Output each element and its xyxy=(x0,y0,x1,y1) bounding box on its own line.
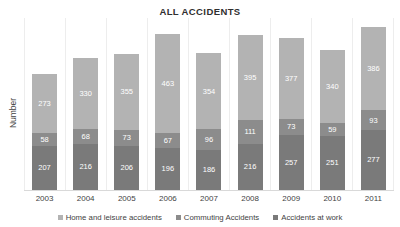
bar-segment[interactable]: 73 xyxy=(279,119,304,135)
chart-body: Number 273582073306821635573206463671963… xyxy=(0,18,400,207)
x-axis-tick-label: 2009 xyxy=(271,191,312,207)
bar-value-label: 273 xyxy=(38,100,51,108)
bar-value-label: 73 xyxy=(287,123,295,131)
x-axis-tick-label: 2007 xyxy=(188,191,229,207)
legend-label: Home and leisure accidents xyxy=(66,213,162,222)
bar-segment[interactable]: 59 xyxy=(320,123,345,136)
x-axis-tick-label: 2010 xyxy=(312,191,353,207)
bar-value-label: 330 xyxy=(79,90,92,98)
bar-segment[interactable]: 377 xyxy=(279,38,304,119)
bar-value-label: 216 xyxy=(244,163,257,171)
bar-segment[interactable]: 186 xyxy=(196,150,221,190)
bar-slot: 33068216 xyxy=(65,18,106,190)
bar-slot: 27358207 xyxy=(24,18,65,190)
stacked-bar-chart: ALL ACCIDENTS Number 2735820733068216355… xyxy=(0,0,400,227)
chart-legend: Home and leisure accidentsCommuting Acci… xyxy=(0,207,400,227)
legend-swatch-icon xyxy=(273,215,278,220)
stacked-bar[interactable]: 33068216 xyxy=(73,58,98,190)
bar-value-label: 59 xyxy=(328,126,336,134)
bar-segment[interactable]: 58 xyxy=(32,133,57,145)
x-axis-tick-label: 2004 xyxy=(65,191,106,207)
bar-segment[interactable]: 216 xyxy=(238,144,263,190)
bar-value-label: 251 xyxy=(326,159,339,167)
bar-segment[interactable]: 277 xyxy=(361,130,386,190)
stacked-bar[interactable]: 37773257 xyxy=(279,38,304,190)
x-axis-tick-label: 2006 xyxy=(147,191,188,207)
bar-value-label: 93 xyxy=(369,117,377,125)
bar-value-label: 355 xyxy=(121,88,134,96)
bar-value-label: 386 xyxy=(367,65,380,73)
bar-segment[interactable]: 73 xyxy=(114,130,139,146)
bar-slot: 38693277 xyxy=(353,18,394,190)
bar-value-label: 73 xyxy=(123,134,131,142)
stacked-bar[interactable]: 27358207 xyxy=(32,74,57,190)
bar-segment[interactable]: 216 xyxy=(73,144,98,190)
bar-segment[interactable]: 463 xyxy=(155,34,180,134)
legend-item[interactable]: Accidents at work xyxy=(273,213,342,222)
bar-segment[interactable]: 67 xyxy=(155,133,180,147)
bar-segment[interactable]: 386 xyxy=(361,27,386,110)
y-axis-label-container: Number xyxy=(2,18,24,207)
x-axis-tick-label: 2005 xyxy=(106,191,147,207)
bar-value-label: 395 xyxy=(244,74,257,82)
bar-segment[interactable]: 355 xyxy=(114,54,139,130)
bar-segment[interactable]: 96 xyxy=(196,129,221,150)
bar-value-label: 68 xyxy=(81,133,89,141)
plot-area: 2735820733068216355732064636719635496186… xyxy=(24,18,394,190)
x-axis-tick-label: 2011 xyxy=(353,191,394,207)
bar-value-label: 463 xyxy=(162,80,175,88)
plot-column: 2735820733068216355732064636719635496186… xyxy=(24,18,394,207)
bar-value-label: 58 xyxy=(40,136,48,144)
bar-segment[interactable]: 251 xyxy=(320,136,345,190)
bar-value-label: 196 xyxy=(162,165,175,173)
x-axis-tick-label: 2008 xyxy=(230,191,271,207)
bar-value-label: 377 xyxy=(285,75,298,83)
stacked-bar[interactable]: 35573206 xyxy=(114,54,139,190)
legend-swatch-icon xyxy=(176,215,181,220)
bar-segment[interactable]: 395 xyxy=(238,35,263,120)
bar-value-label: 96 xyxy=(205,136,213,144)
bar-value-label: 186 xyxy=(203,166,216,174)
bar-value-label: 67 xyxy=(164,137,172,145)
bar-segment[interactable]: 196 xyxy=(155,148,180,190)
bar-value-label: 207 xyxy=(38,164,51,172)
bar-slot: 34059251 xyxy=(312,18,353,190)
bar-value-label: 216 xyxy=(79,163,92,171)
bar-segment[interactable]: 330 xyxy=(73,58,98,129)
y-axis-label: Number xyxy=(8,97,18,127)
stacked-bar[interactable]: 34059251 xyxy=(320,50,345,190)
bar-slot: 35573206 xyxy=(106,18,147,190)
bar-segment[interactable]: 257 xyxy=(279,135,304,190)
bar-value-label: 206 xyxy=(121,164,134,172)
stacked-bar[interactable]: 46367196 xyxy=(155,34,180,190)
legend-item[interactable]: Home and leisure accidents xyxy=(58,213,162,222)
bar-slot: 35496186 xyxy=(188,18,229,190)
bar-segment[interactable]: 354 xyxy=(196,53,221,129)
bar-slot: 46367196 xyxy=(147,18,188,190)
bar-segment[interactable]: 207 xyxy=(32,146,57,190)
bar-value-label: 257 xyxy=(285,159,298,167)
chart-title: ALL ACCIDENTS xyxy=(0,6,400,18)
x-axis: 200320042005200620072008200920102011 xyxy=(24,190,394,207)
legend-swatch-icon xyxy=(58,215,63,220)
stacked-bar[interactable]: 38693277 xyxy=(361,27,386,190)
stacked-bar[interactable]: 395111216 xyxy=(238,35,263,190)
legend-item[interactable]: Commuting Accidents xyxy=(176,213,259,222)
bar-value-label: 111 xyxy=(244,128,255,136)
bar-value-label: 354 xyxy=(203,88,216,96)
legend-label: Accidents at work xyxy=(281,213,342,222)
bar-segment[interactable]: 206 xyxy=(114,146,139,190)
bar-value-label: 340 xyxy=(326,83,339,91)
bar-segment[interactable]: 111 xyxy=(238,120,263,144)
bar-segment[interactable]: 68 xyxy=(73,129,98,144)
bar-value-label: 277 xyxy=(367,156,380,164)
legend-label: Commuting Accidents xyxy=(184,213,259,222)
bar-slot: 395111216 xyxy=(230,18,271,190)
bar-segment[interactable]: 340 xyxy=(320,50,345,123)
x-axis-tick-label: 2003 xyxy=(24,191,65,207)
bar-series-container: 2735820733068216355732064636719635496186… xyxy=(24,18,394,190)
stacked-bar[interactable]: 35496186 xyxy=(196,53,221,190)
bar-segment[interactable]: 273 xyxy=(32,74,57,133)
bar-segment[interactable]: 93 xyxy=(361,110,386,130)
bar-slot: 37773257 xyxy=(271,18,312,190)
